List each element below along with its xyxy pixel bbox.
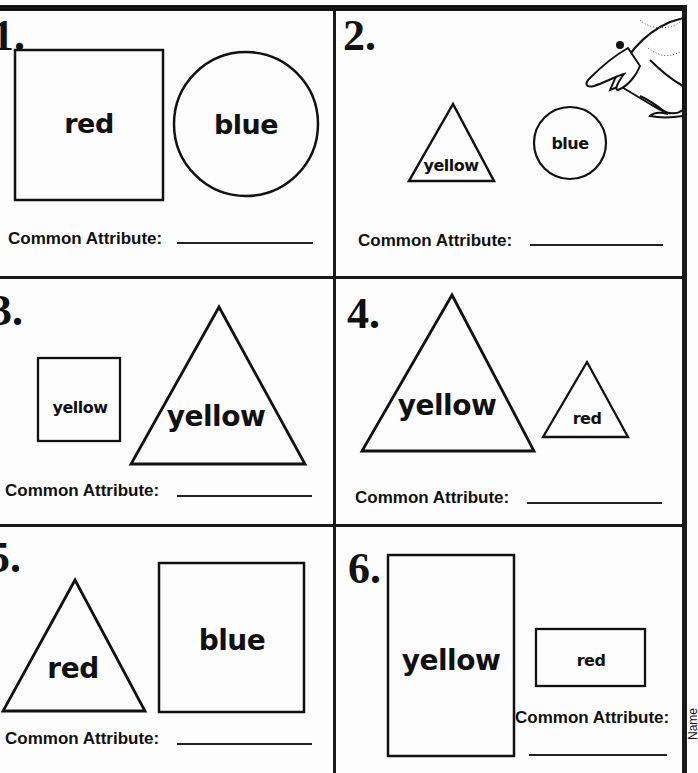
common-attribute-label: Common Attribute: xyxy=(515,708,669,728)
shape-label: red xyxy=(577,651,606,670)
name-field-label: Name xyxy=(686,708,698,740)
answer-blank[interactable] xyxy=(529,754,667,756)
shape-label: yellow xyxy=(402,644,501,677)
